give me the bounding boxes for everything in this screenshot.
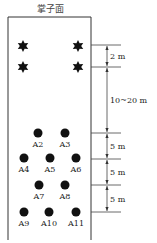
borehole-dot: [45, 208, 54, 217]
borehole: A4: [18, 154, 30, 175]
borehole: A6: [70, 154, 82, 175]
borehole-dot: [72, 154, 81, 163]
borehole: A2: [32, 129, 44, 150]
arrow-down-icon: [105, 128, 108, 132]
borehole: A8: [59, 181, 71, 202]
dimension: 5 m: [105, 186, 125, 211]
borehole-label: A10: [40, 219, 57, 228]
borehole: A5: [44, 154, 56, 175]
borehole-label: A4: [18, 165, 30, 174]
arrow-down-icon: [105, 62, 108, 66]
borehole-dot: [20, 154, 29, 163]
arrow-down-icon: [105, 154, 108, 158]
dimension-label: 5 m: [110, 168, 126, 177]
dimension-label: 10~20 m: [110, 96, 148, 105]
borehole-dot: [35, 181, 44, 190]
arrow-down-icon: [105, 207, 108, 211]
arrow-down-icon: [105, 180, 108, 184]
borehole: A3: [59, 129, 71, 150]
borehole-dot: [46, 154, 55, 163]
borehole-dot: [72, 208, 81, 217]
dimension: 10~20 m: [105, 68, 147, 132]
dimension-lines: 2 m10~20 m5 m5 m5 m: [91, 45, 148, 212]
borehole: A9: [18, 208, 30, 229]
borehole-label: A2: [32, 140, 44, 149]
dimension-label: 5 m: [110, 195, 126, 204]
arrow-up-icon: [105, 46, 108, 50]
star-marker-icon: [18, 40, 28, 52]
borehole: A11: [67, 208, 84, 229]
star-markers: [18, 40, 83, 73]
borehole-markers: A2A3A4A5A6A7A8A9A10A11: [18, 129, 84, 229]
arrow-up-icon: [105, 68, 108, 72]
arrow-up-icon: [105, 186, 108, 190]
dimension-label: 5 m: [110, 142, 126, 151]
borehole-dot: [61, 181, 70, 190]
borehole: A10: [40, 208, 57, 229]
arrow-up-icon: [105, 160, 108, 164]
borehole-label: A6: [70, 165, 82, 174]
borehole-dot: [34, 129, 43, 138]
borehole-dot: [61, 129, 70, 138]
dimension: 5 m: [105, 134, 125, 158]
dimension-label: 2 m: [110, 52, 126, 61]
diagram-title: 掌子面: [37, 4, 64, 14]
dimension: 5 m: [105, 160, 125, 184]
star-marker-icon: [18, 61, 28, 73]
dimension: 2 m: [105, 46, 125, 66]
star-marker-icon: [73, 40, 83, 52]
borehole: A7: [33, 181, 45, 202]
star-marker-icon: [73, 61, 83, 73]
tunnel-face-diagram: 掌子面 A2A3A4A5A6A7A8A9A10A11 2 m10~20 m5 m…: [0, 0, 157, 243]
borehole-label: A3: [59, 140, 71, 149]
borehole-label: A11: [67, 219, 84, 228]
borehole-label: A7: [33, 192, 45, 201]
arrow-up-icon: [105, 134, 108, 138]
borehole-label: A5: [44, 165, 56, 174]
borehole-label: A8: [59, 192, 71, 201]
borehole-dot: [20, 208, 29, 217]
borehole-label: A9: [18, 219, 30, 228]
